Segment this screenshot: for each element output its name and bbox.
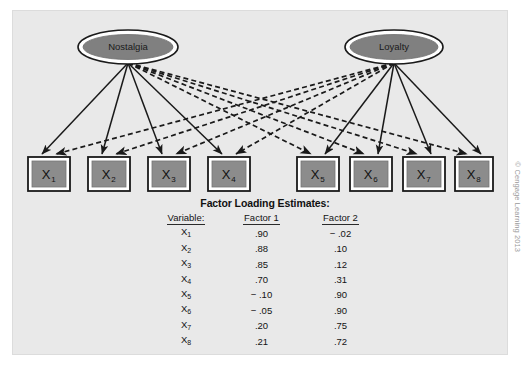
cell-factor2: .90 [301,288,380,303]
cell-factor1: .20 [222,318,301,333]
indicator-box-x7[interactable]: X7 [403,157,445,191]
table-row: X5− .10.90 [150,288,380,303]
cell-factor1: .70 [222,272,301,287]
cell-variable: X2 [150,241,222,256]
table-row: X3.85.12 [150,257,380,272]
cell-variable: X1 [150,226,222,241]
nodes-layer: NostalgiaLoyalty [78,30,443,64]
cell-factor2: .31 [301,272,380,287]
factor-node-nostalgia[interactable]: Nostalgia [78,30,178,64]
path-loyalty-to-x4 [236,63,394,154]
cell-factor2: .90 [301,303,380,318]
indicator-box-label-subscript: 5 [320,175,325,184]
table-body: X1.90− .02X2.88.10X3.85.12X4.70.31X5− .1… [150,226,380,349]
boxes-layer: X1X2X3X4X5X6X7X8 [28,157,493,191]
factor-node-loyalty[interactable]: Loyalty [345,30,443,64]
path-nostalgia-to-x4 [128,63,222,154]
col-header-factor2: Factor 2 [301,212,380,226]
indicator-box-x2[interactable]: X2 [88,157,130,191]
cell-variable: X5 [150,288,222,303]
col-header-factor1: Factor 1 [222,212,301,226]
indicator-box-label-subscript: 4 [231,175,236,184]
table-row: X6− .05.90 [150,303,380,318]
indicator-box-label-subscript: 7 [426,175,431,184]
indicator-box-label: X [42,167,51,182]
col-header-factor2-text: Factor 2 [322,212,359,225]
cell-factor2: − .02 [301,226,380,241]
cell-factor1: .88 [222,241,301,256]
cell-factor2: .10 [301,241,380,256]
indicator-box-x8[interactable]: X8 [455,157,493,191]
factor-node-label: Nostalgia [108,41,148,52]
indicator-box-label: X [162,167,171,182]
indicator-box-label-subscript: 3 [171,175,176,184]
cell-factor1: − .10 [222,288,301,303]
factor-node-label: Loyalty [379,41,409,52]
indicator-box-label-subscript: 2 [111,175,116,184]
figure-root: NostalgiaLoyalty X1X2X3X4X5X6X7X8 Factor… [0,0,523,370]
table-row: X1.90− .02 [150,226,380,241]
col-header-variable-text: Variable: [167,212,206,225]
path-loyalty-to-x6 [378,63,394,154]
factor-loading-table: Variable: Factor 1 Factor 2 X1.90− .02X2… [150,212,380,349]
indicator-box-label: X [102,167,111,182]
cell-factor2: .72 [301,334,380,349]
cell-variable-subscript: 8 [187,339,191,346]
path-nostalgia-to-x3 [128,63,162,154]
table-row: X4.70.31 [150,272,380,287]
cell-factor1: .90 [222,226,301,241]
table-title: Factor Loading Estimates: [150,197,380,209]
cell-factor1: .21 [222,334,301,349]
path-nostalgia-to-x8 [128,63,467,154]
table-header-row: Variable: Factor 1 Factor 2 [150,212,380,226]
factor-loading-table-block: Factor Loading Estimates: Variable: Fact… [150,197,380,349]
path-nostalgia-to-x7 [128,63,417,154]
cell-variable: X3 [150,257,222,272]
col-header-variable: Variable: [150,212,222,226]
path-loyalty-to-x1 [56,63,394,154]
cell-variable-subscript: 3 [187,262,191,269]
cell-variable: X7 [150,318,222,333]
col-header-factor1-text: Factor 1 [243,212,280,225]
cell-factor2: .75 [301,318,380,333]
indicator-box-x5[interactable]: X5 [297,157,339,191]
cell-variable-subscript: 1 [187,231,191,238]
cell-variable-subscript: 7 [187,324,191,331]
indicator-box-label-subscript: 8 [476,175,481,184]
indicator-box-label: X [222,167,231,182]
cell-variable-subscript: 6 [187,308,191,315]
copyright-notice: © Cengage Learning 2013 [513,162,522,252]
table-row: X8.21.72 [150,334,380,349]
indicator-box-label: X [311,167,320,182]
table-row: X2.88.10 [150,241,380,256]
indicator-box-label-subscript: 1 [51,175,56,184]
cell-variable-subscript: 5 [187,293,191,300]
cell-factor1: − .05 [222,303,301,318]
indicator-box-label: X [467,167,476,182]
indicator-box-x4[interactable]: X4 [208,157,250,191]
table-row: X7.20.75 [150,318,380,333]
cell-variable: X6 [150,303,222,318]
edges-layer [42,63,481,154]
cell-variable-subscript: 4 [187,278,191,285]
indicator-box-x3[interactable]: X3 [148,157,190,191]
indicator-box-label: X [417,167,426,182]
indicator-box-label-subscript: 6 [373,175,378,184]
table-head: Variable: Factor 1 Factor 2 [150,212,380,226]
path-loyalty-to-x8 [394,63,481,154]
cell-variable: X8 [150,334,222,349]
cell-variable: X4 [150,272,222,287]
path-loyalty-to-x7 [394,63,431,154]
cell-factor1: .85 [222,257,301,272]
indicator-box-label: X [364,167,373,182]
cell-factor2: .12 [301,257,380,272]
cell-variable-subscript: 2 [187,247,191,254]
path-nostalgia-to-x6 [128,63,364,154]
indicator-box-x6[interactable]: X6 [350,157,392,191]
indicator-box-x1[interactable]: X1 [28,157,70,191]
